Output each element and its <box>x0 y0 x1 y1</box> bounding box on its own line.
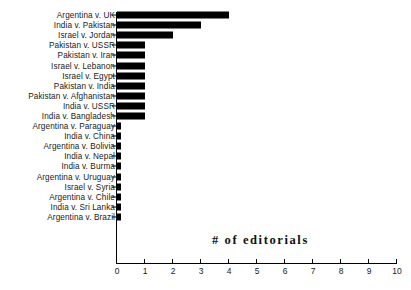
bar <box>117 22 201 29</box>
bar-row: India v. Pakistan <box>0 20 411 30</box>
bar <box>117 193 121 200</box>
x-axis-tick <box>228 259 229 264</box>
bar-row: India v. Burma <box>0 161 411 171</box>
y-axis-tick <box>112 65 116 66</box>
bar <box>117 72 145 79</box>
bar-category-label: India v. China <box>64 132 115 141</box>
bar-category-label: Argentina v. UK <box>57 11 115 20</box>
y-axis-tick <box>112 136 116 137</box>
bar-category-label: Israel v. Lebanon <box>51 61 115 70</box>
bar <box>117 133 121 140</box>
x-axis-tick-label: 5 <box>255 266 260 276</box>
bar-category-label: Argentina v. Chile <box>49 192 115 201</box>
y-axis-tick <box>112 166 116 167</box>
bar-row: Argentina v. Bolivia <box>0 141 411 151</box>
x-axis-tick-label: 4 <box>227 266 232 276</box>
bar <box>117 143 121 150</box>
bar-row: Argentina v. Paraguay <box>0 121 411 131</box>
x-axis-tick-label: 0 <box>115 266 120 276</box>
y-axis-tick <box>112 55 116 56</box>
y-axis-tick <box>112 115 116 116</box>
bar-category-label: Argentina v. Paraguay <box>32 122 115 131</box>
y-axis-tick <box>112 25 116 26</box>
y-axis-tick <box>112 35 116 36</box>
bar <box>117 52 145 59</box>
bar-category-label: Pakistan v. India <box>54 81 115 90</box>
x-axis-tick <box>396 259 397 264</box>
chart-title: # of editorials <box>212 233 309 248</box>
bar-row: India v. Bangladesh <box>0 111 411 121</box>
x-axis-tick <box>200 259 201 264</box>
bar-category-label: Israel v. Syria <box>65 182 115 191</box>
bar <box>117 92 145 99</box>
y-axis-tick <box>112 146 116 147</box>
y-axis-tick <box>112 15 116 16</box>
x-axis-tick-label: 3 <box>199 266 204 276</box>
x-axis-tick <box>368 259 369 264</box>
bar <box>117 102 145 109</box>
bar-category-label: Israel v. Egypt <box>62 71 115 80</box>
bar-row: India v. Sri Lanka <box>0 202 411 212</box>
y-axis-tick <box>112 216 116 217</box>
bar <box>117 32 173 39</box>
x-axis-tick <box>172 259 173 264</box>
bar-row: Pakistan v. Afghanistan <box>0 91 411 101</box>
bar <box>117 213 121 220</box>
bar <box>117 82 145 89</box>
x-axis-tick-label: 1 <box>143 266 148 276</box>
bar-row: India v. Nepal <box>0 151 411 161</box>
bar-row: Argentina v. UK <box>0 10 411 20</box>
y-axis-tick <box>112 105 116 106</box>
bar-row: India v. China <box>0 131 411 141</box>
x-axis-tick <box>116 259 117 264</box>
bar <box>117 203 121 210</box>
bar <box>117 163 121 170</box>
bar-row: Pakistan v. India <box>0 81 411 91</box>
x-axis-tick-label: 7 <box>311 266 316 276</box>
bar <box>117 12 229 19</box>
bar-row: Argentina v. Brazil <box>0 212 411 222</box>
bar-category-label: Israel v. Jordan <box>58 31 115 40</box>
bar-category-label: Argentina v. Brazil <box>47 212 115 221</box>
x-axis-tick-label: 6 <box>283 266 288 276</box>
bar-category-label: India v. Nepal <box>64 152 115 161</box>
x-axis-tick-label: 2 <box>171 266 176 276</box>
y-axis-tick <box>112 206 116 207</box>
bar-category-label: Argentina v. Uruguay <box>37 172 115 181</box>
bar <box>117 42 145 49</box>
bar <box>117 62 145 69</box>
bar-row: India v. USSR <box>0 101 411 111</box>
bar-rows: Argentina v. UKIndia v. PakistanIsrael v… <box>0 10 411 222</box>
x-axis-tick <box>256 259 257 264</box>
bar-chart: Argentina v. UKIndia v. PakistanIsrael v… <box>0 0 411 290</box>
bar-category-label: India v. USSR <box>63 101 115 110</box>
bar-row: Pakistan v. USSR <box>0 40 411 50</box>
bar-row: Israel v. Lebanon <box>0 60 411 70</box>
bar <box>117 123 121 130</box>
bar-row: Israel v. Jordan <box>0 30 411 40</box>
bar-category-label: Pakistan v. USSR <box>49 41 115 50</box>
x-axis-tick-label: 10 <box>392 266 401 276</box>
x-axis-tick <box>340 259 341 264</box>
bar <box>117 153 121 160</box>
y-axis-tick <box>112 196 116 197</box>
bar-category-label: India v. Pakistan <box>54 21 115 30</box>
bar-category-label: Pakistan v. Iran <box>58 51 115 60</box>
bar-category-label: India v. Bangladesh <box>42 111 115 120</box>
x-axis-tick <box>144 259 145 264</box>
bar <box>117 183 121 190</box>
bar-category-label: Argentina v. Bolivia <box>44 142 115 151</box>
x-axis-tick-label: 8 <box>339 266 344 276</box>
bar-row: Argentina v. Uruguay <box>0 172 411 182</box>
y-axis-tick <box>112 85 116 86</box>
bar-row: Israel v. Egypt <box>0 71 411 81</box>
bar-row: Israel v. Syria <box>0 182 411 192</box>
y-axis-tick <box>112 95 116 96</box>
y-axis-tick <box>112 176 116 177</box>
bar <box>117 112 145 119</box>
y-axis-tick <box>112 75 116 76</box>
y-axis-tick <box>112 45 116 46</box>
bar-category-label: India v. Sri Lanka <box>51 202 115 211</box>
bar-category-label: India v. Burma <box>61 162 115 171</box>
x-axis-tick <box>284 259 285 264</box>
